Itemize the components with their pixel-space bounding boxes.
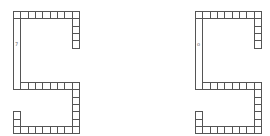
track-cell-bottom-left-column bbox=[195, 119, 203, 127]
s-track-figure-right: o bbox=[195, 0, 270, 136]
track-left-long-bar bbox=[195, 18, 203, 90]
track-cell-bottom-row bbox=[254, 126, 262, 134]
track-cell-bottom-left-column bbox=[195, 111, 203, 119]
track-cell-bottom-left-column bbox=[13, 119, 21, 127]
track-cell-top-right-column bbox=[254, 40, 262, 48]
s-track-figure-left: 7 bbox=[13, 0, 103, 136]
track-left-long-bar bbox=[13, 18, 21, 90]
track-cell-bottom-left-column bbox=[13, 111, 21, 119]
track-marker-glyph: 7 bbox=[15, 42, 18, 47]
track-marker-glyph: o bbox=[197, 42, 200, 47]
track-cell-bottom-row bbox=[72, 126, 80, 134]
track-cell-top-right-column bbox=[72, 40, 80, 48]
